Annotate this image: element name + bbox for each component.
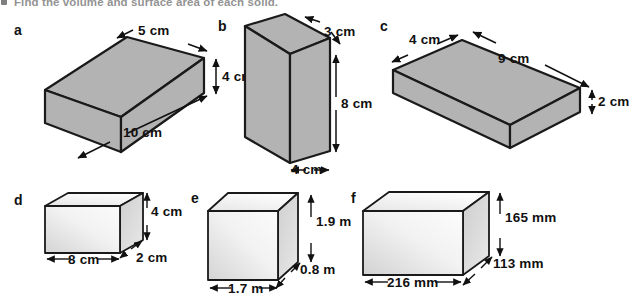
dimension-f-width: 216 mm (387, 275, 438, 290)
worksheet-canvas: Find the volume and surface area of each… (0, 0, 630, 303)
dimension-f-depth: 113 mm (493, 256, 544, 271)
dimension-f-height: 165 mm (505, 210, 556, 225)
